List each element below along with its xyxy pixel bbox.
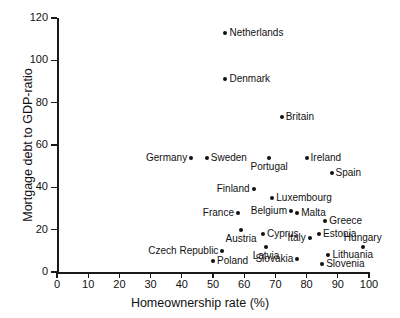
data-point-label: Hungary	[344, 233, 382, 243]
x-tick-label: 0	[42, 278, 72, 290]
data-point	[189, 156, 193, 160]
data-point-label: Netherlands	[229, 28, 283, 38]
data-point-label: Austria	[226, 234, 257, 244]
data-point-label: Spain	[336, 168, 362, 178]
data-point	[361, 245, 365, 249]
y-tick-mark	[51, 102, 57, 103]
y-tick-mark	[51, 17, 57, 18]
data-point-label: Denmark	[229, 74, 270, 84]
data-point-label: Greece	[329, 216, 362, 226]
x-tick-label: 80	[292, 278, 322, 290]
x-tick-label: 40	[167, 278, 197, 290]
y-axis-line	[57, 18, 59, 273]
data-point	[220, 249, 224, 253]
y-tick-mark	[51, 229, 57, 230]
data-point-label: Belgium	[251, 206, 287, 216]
x-axis-title: Homeownership rate (%)	[0, 296, 400, 310]
data-point	[308, 236, 312, 240]
data-point	[295, 257, 299, 261]
data-point	[326, 253, 330, 257]
data-point-label: Ireland	[311, 153, 342, 163]
data-point-label: France	[203, 208, 234, 218]
y-tick-mark	[51, 144, 57, 145]
data-point-label: Finland	[217, 184, 250, 194]
y-tick-mark	[51, 187, 57, 188]
data-point	[239, 228, 243, 232]
data-point-label: Luxembourg	[276, 193, 332, 203]
x-tick-label: 90	[323, 278, 353, 290]
data-point-label: Portugal	[251, 162, 288, 172]
data-point	[320, 262, 324, 266]
x-tick-label: 60	[229, 278, 259, 290]
data-point-label: Malta	[301, 208, 325, 218]
data-point	[317, 232, 321, 236]
data-point-label: Britain	[286, 112, 314, 122]
data-point-label: Czech Republic	[148, 246, 218, 256]
y-axis-title: Mortgage debt to GDP-ratio	[21, 20, 35, 270]
data-point-label: Germany	[146, 153, 187, 163]
x-tick-label: 50	[198, 278, 228, 290]
data-point	[305, 156, 309, 160]
x-tick-label: 10	[73, 278, 103, 290]
data-point	[252, 187, 256, 191]
data-point	[267, 156, 271, 160]
data-point	[330, 171, 334, 175]
data-point	[289, 209, 293, 213]
data-point	[295, 211, 299, 215]
data-point	[211, 259, 215, 263]
data-point	[280, 115, 284, 119]
x-tick-label: 70	[260, 278, 290, 290]
data-point-label: Poland	[217, 256, 248, 266]
data-point	[236, 211, 240, 215]
data-point	[323, 219, 327, 223]
x-tick-label: 30	[136, 278, 166, 290]
data-point-label: Slovenia	[326, 259, 364, 269]
data-point	[261, 232, 265, 236]
scatter-chart: 020406080100120 0102030405060708090100 N…	[0, 0, 400, 318]
data-point-label: Slovakia	[255, 254, 293, 264]
data-point	[223, 77, 227, 81]
data-point	[264, 245, 268, 249]
data-point-label: Sweden	[211, 153, 247, 163]
data-point	[205, 156, 209, 160]
x-tick-label: 20	[104, 278, 134, 290]
x-tick-label: 100	[354, 278, 384, 290]
data-point-label: Italy	[287, 233, 305, 243]
data-point	[223, 31, 227, 35]
data-point	[270, 196, 274, 200]
y-tick-mark	[51, 60, 57, 61]
